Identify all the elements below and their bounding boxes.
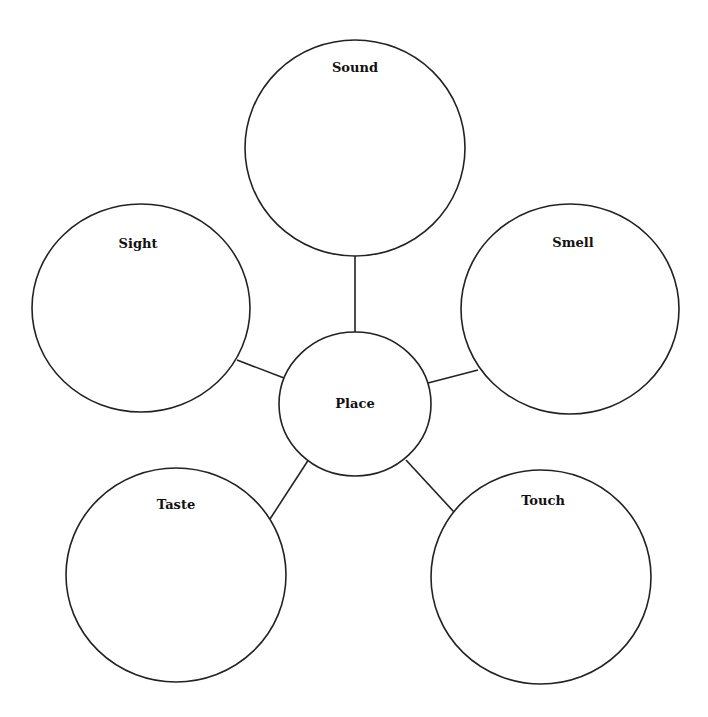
node-taste: Taste	[66, 468, 286, 682]
node-touch: Touch	[431, 470, 651, 684]
connector-taste	[270, 459, 309, 519]
label-place: Place	[335, 396, 374, 411]
connector-touch	[406, 460, 454, 512]
senses-web-diagram: Sound Sight Smell Taste Touch Place	[0, 0, 708, 717]
label-touch: Touch	[521, 493, 565, 508]
connector-smell	[428, 370, 478, 383]
node-sound: Sound	[245, 40, 465, 256]
node-place: Place	[279, 332, 431, 476]
label-sight: Sight	[119, 236, 158, 251]
label-smell: Smell	[552, 235, 593, 250]
label-taste: Taste	[157, 497, 195, 512]
node-smell: Smell	[461, 204, 679, 414]
label-sound: Sound	[332, 60, 378, 75]
connector-sight	[237, 360, 284, 378]
node-sight: Sight	[32, 204, 250, 412]
